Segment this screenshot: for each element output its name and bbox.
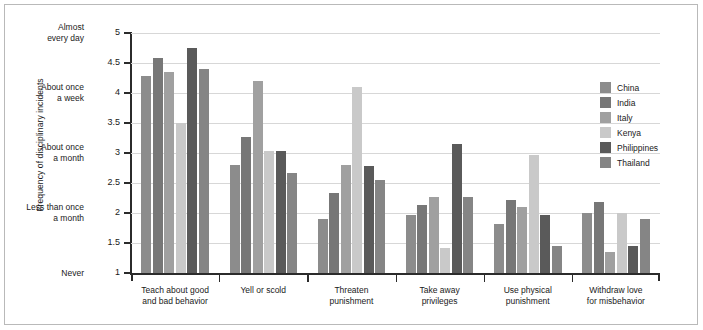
y-axis-anchor-label: Never [18, 268, 84, 279]
gridline [131, 213, 660, 214]
y-axis-anchor-labels: Almostevery dayAbout oncea weekAbout onc… [18, 0, 84, 330]
y-tick-label: 2 [90, 207, 120, 217]
x-axis-category-label: Withdraw lovefor misbehavior [572, 285, 660, 306]
y-tick-mark [124, 242, 130, 244]
y-tick-mark [124, 32, 130, 34]
legend-label: China [617, 83, 639, 93]
bar[interactable] [230, 165, 240, 273]
bar-group [406, 33, 474, 273]
x-tick-mark [219, 275, 220, 282]
bar[interactable] [375, 180, 385, 273]
legend-item[interactable]: Thailand [600, 155, 695, 170]
bar[interactable] [341, 165, 351, 273]
legend-item[interactable]: China [600, 80, 695, 95]
bar[interactable] [429, 197, 439, 273]
legend-label: Kenya [617, 128, 641, 138]
bar[interactable] [594, 202, 604, 273]
bar[interactable] [582, 213, 592, 273]
legend-swatch-icon [600, 112, 611, 123]
bar[interactable] [552, 246, 562, 273]
bar[interactable] [264, 151, 274, 273]
y-tick-mark [124, 62, 130, 64]
legend-swatch-icon [600, 127, 611, 138]
bar[interactable] [287, 173, 297, 273]
y-axis-tick-labels: 11.522.533.544.55 [84, 0, 120, 330]
y-tick-label: 5 [90, 27, 120, 37]
bar[interactable] [617, 213, 627, 273]
legend-swatch-icon [600, 142, 611, 153]
bar[interactable] [452, 144, 462, 273]
chart-legend: ChinaIndiaItalyKenyaPhilippinesThailand [600, 80, 695, 170]
legend-item[interactable]: India [600, 95, 695, 110]
gridline [131, 123, 660, 124]
bar[interactable] [329, 193, 339, 273]
y-tick-label: 3 [90, 147, 120, 157]
bar[interactable] [253, 81, 263, 273]
bar[interactable] [364, 166, 374, 273]
legend-item[interactable]: Kenya [600, 125, 695, 140]
x-axis-end-cap [658, 273, 660, 281]
y-axis-anchor-label: About oncea week [18, 82, 84, 103]
legend-item[interactable]: Italy [600, 110, 695, 125]
x-axis-category-label: Teach about goodand bad behavior [131, 285, 219, 306]
bar[interactable] [176, 123, 186, 273]
bar[interactable] [628, 246, 638, 273]
gridline [131, 183, 660, 184]
y-tick-label: 1 [90, 267, 120, 277]
bar[interactable] [199, 69, 209, 273]
bar-group [230, 33, 298, 273]
x-axis-category-label: Threatenpunishment [307, 285, 395, 306]
y-tick-label: 2.5 [90, 177, 120, 187]
x-tick-mark [307, 275, 308, 282]
legend-label: Italy [617, 113, 633, 123]
bar[interactable] [540, 215, 550, 273]
y-tick-label: 4 [90, 87, 120, 97]
bar[interactable] [494, 224, 504, 273]
bar[interactable] [187, 48, 197, 273]
bar[interactable] [318, 219, 328, 273]
bar[interactable] [141, 76, 151, 273]
bar[interactable] [153, 58, 163, 273]
bar[interactable] [164, 72, 174, 273]
x-tick-mark [572, 275, 573, 282]
x-tick-mark [484, 275, 485, 282]
bar[interactable] [276, 151, 286, 273]
bar[interactable] [417, 205, 427, 273]
bar[interactable] [506, 200, 516, 273]
x-tick-mark [396, 275, 397, 282]
legend-swatch-icon [600, 157, 611, 168]
legend-item[interactable]: Philippines [600, 140, 695, 155]
x-axis-end-cap [131, 273, 133, 281]
bar[interactable] [640, 219, 650, 273]
bar[interactable] [463, 197, 473, 273]
bar[interactable] [241, 137, 251, 273]
bar[interactable] [406, 215, 416, 273]
plot-area [131, 33, 660, 273]
y-axis-anchor-label: Less than oncea month [18, 202, 84, 223]
y-tick-mark [124, 122, 130, 124]
bar[interactable] [440, 248, 450, 273]
bar-group [494, 33, 562, 273]
x-axis-category-label: Use physicalpunishment [484, 285, 572, 306]
y-tick-mark [124, 182, 130, 184]
bar[interactable] [529, 155, 539, 273]
x-axis-category-label: Take awayprivileges [396, 285, 484, 306]
chart-figure: Frequency of disciplinary incidents Almo… [0, 0, 703, 330]
legend-swatch-icon [600, 97, 611, 108]
legend-label: Thailand [617, 158, 650, 168]
legend-swatch-icon [600, 82, 611, 93]
gridline [131, 243, 660, 244]
y-axis-anchor-label: About oncea month [18, 142, 84, 163]
legend-label: India [617, 98, 635, 108]
y-axis-anchor-label: Almostevery day [18, 22, 84, 43]
y-tick-label: 4.5 [90, 57, 120, 67]
bar[interactable] [605, 252, 615, 273]
bar[interactable] [352, 87, 362, 273]
legend-label: Philippines [617, 143, 658, 153]
bar-group [141, 33, 209, 273]
y-tick-mark [124, 212, 130, 214]
bar-group [318, 33, 386, 273]
x-axis-category-label: Yell or scold [219, 285, 307, 296]
bar[interactable] [517, 207, 527, 273]
y-tick-mark [124, 152, 130, 154]
